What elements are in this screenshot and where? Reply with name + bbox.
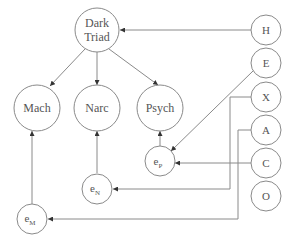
node-e: E <box>251 48 281 78</box>
edge-dark-triad-to-mach <box>50 49 85 86</box>
node-e-n-sub: N <box>95 189 100 197</box>
node-a-label: A <box>262 124 270 136</box>
node-e-label: E <box>263 57 270 69</box>
node-dark-triad-label-line1: Dark <box>85 16 109 30</box>
node-narc: Narc <box>74 85 120 131</box>
node-a: A <box>251 115 281 145</box>
node-mach-label: Mach <box>23 101 50 115</box>
node-e-m-sub: M <box>29 219 36 227</box>
node-o-label: O <box>262 190 270 202</box>
node-psych-label: Psych <box>146 101 175 115</box>
edge-dark-triad-to-psych <box>109 49 158 85</box>
node-h-label: H <box>262 24 270 36</box>
edge-a-to-e-m <box>48 130 251 219</box>
node-c-label: C <box>262 157 269 169</box>
node-e-m: eM <box>17 204 47 234</box>
node-e-p: eP <box>145 146 175 176</box>
node-o: O <box>251 181 281 211</box>
node-e-n: eN <box>82 174 112 204</box>
node-x: X <box>251 82 281 112</box>
path-diagram: Dark Triad Mach Narc Psych eP eN eM H E … <box>0 0 290 242</box>
node-narc-label: Narc <box>85 101 108 115</box>
node-dark-triad: Dark Triad <box>75 8 119 52</box>
node-psych: Psych <box>137 85 183 131</box>
node-x-label: X <box>262 91 270 103</box>
node-mach: Mach <box>14 85 60 131</box>
node-c: C <box>251 148 281 178</box>
node-e-p-sub: P <box>158 162 162 170</box>
node-h: H <box>251 15 281 45</box>
node-dark-triad-label-line2: Triad <box>84 30 110 44</box>
